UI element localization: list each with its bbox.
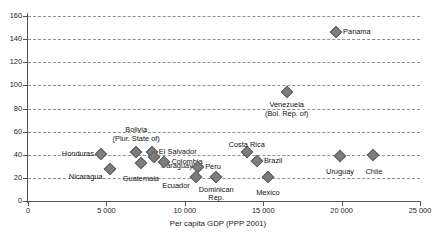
y-axis-tick (23, 132, 28, 133)
data-point-marker[interactable] (367, 148, 380, 161)
gridline (28, 132, 420, 133)
data-point-label: Uruguay (326, 168, 354, 177)
data-point-marker[interactable] (330, 26, 343, 39)
y-axis-tick-label: 60 (0, 128, 22, 136)
data-point-label: Guatemala (123, 175, 159, 184)
gridline (28, 16, 420, 17)
y-axis-tick-label: 40 (0, 151, 22, 159)
data-point-label: Mexico (256, 189, 279, 198)
x-axis-title: Per capita GDP (PPP 2001) (0, 219, 436, 228)
x-axis-tick-label: 20 000 (330, 206, 353, 215)
x-axis-tick-label: 10 000 (173, 206, 196, 215)
x-axis-tick-label: 0 (26, 206, 30, 215)
gridline (28, 62, 420, 63)
y-axis-tick-label: 0 (0, 197, 22, 205)
data-point-label: Chile (366, 168, 383, 177)
data-point-label: Bolivia(Plur. State of) (113, 126, 160, 143)
data-point-marker[interactable] (210, 170, 223, 183)
x-axis-tick-label: 5 000 (97, 206, 116, 215)
y-axis-tick-label: 120 (0, 58, 22, 66)
y-axis-tick-label: 160 (0, 12, 22, 20)
y-axis-tick (23, 85, 28, 86)
data-point-marker[interactable] (135, 156, 148, 169)
data-point-marker[interactable] (95, 147, 108, 160)
data-point-marker[interactable] (103, 162, 116, 175)
y-axis-tick (23, 155, 28, 156)
data-point-label: Venezuela(Bol. Rep. of) (265, 101, 309, 118)
y-axis-tick (23, 178, 28, 179)
scatter-chart-figure: 020406080100120140160 05 00010 00015 000… (0, 0, 436, 239)
data-point-marker[interactable] (251, 154, 264, 167)
data-point-label: Panama (343, 28, 371, 37)
data-point-label: DominicanRep. (199, 186, 234, 203)
gridline (28, 109, 420, 110)
y-axis-tick-label: 80 (0, 105, 22, 113)
y-axis-tick (23, 16, 28, 17)
gridline (28, 39, 420, 40)
y-axis-tick-label: 100 (0, 81, 22, 89)
gridline (28, 85, 420, 86)
x-axis-tick-label: 25 000 (409, 206, 432, 215)
y-axis-tick (23, 109, 28, 110)
data-point-label: Ecuador (162, 182, 190, 191)
data-point-marker[interactable] (280, 86, 293, 99)
data-point-marker[interactable] (189, 170, 202, 183)
data-point-label: Honduras (62, 150, 94, 159)
data-point-marker[interactable] (334, 150, 347, 163)
data-point-label: Brazil (264, 157, 282, 166)
data-point-label: Peru (205, 163, 221, 172)
y-axis-tick (23, 62, 28, 63)
y-axis-tick-label: 20 (0, 174, 22, 182)
data-point-label: Nicaragua (69, 173, 103, 182)
y-axis-tick (23, 39, 28, 40)
data-point-label: Costa Rica (229, 141, 265, 150)
y-axis-tick-label: 140 (0, 35, 22, 43)
data-point-marker[interactable] (262, 170, 275, 183)
x-axis-tick-label: 15 000 (252, 206, 275, 215)
